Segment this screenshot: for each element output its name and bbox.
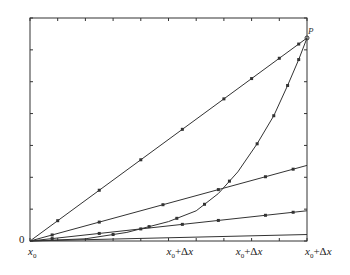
data-marker [272,114,275,117]
data-marker [297,58,300,61]
data-marker [98,232,101,235]
data-marker [217,219,220,222]
data-marker [256,142,259,145]
figure: P [0,0,350,275]
data-marker [51,233,54,236]
data-marker [148,225,151,228]
data-marker [98,221,101,224]
data-marker [264,175,267,178]
y-origin-label: 0 [19,233,25,245]
data-marker [286,84,289,87]
marker-group [51,36,309,240]
data-marker [98,189,101,192]
data-marker [264,214,267,217]
data-marker [161,203,164,206]
data-marker [250,77,253,80]
data-marker [51,237,54,240]
series-secant-steep [30,38,307,241]
x-tick-label: x0+Δx [236,245,263,260]
data-marker [222,97,225,100]
data-marker [181,128,184,131]
x-tick-label: x0+Δx [305,245,332,260]
data-marker [181,223,184,226]
data-marker [292,211,295,214]
series-group [30,38,307,241]
data-marker [278,57,281,60]
data-marker [139,158,142,161]
x-tick-label: x0 [28,245,36,260]
data-marker [139,227,142,230]
data-marker [217,188,220,191]
x-tick-label: x0+Δx [167,245,194,260]
data-marker [228,180,231,183]
data-marker [56,219,59,222]
data-marker [175,217,178,220]
data-marker [112,233,115,236]
point-p-label: P [307,26,314,36]
data-marker [292,168,295,171]
data-marker [203,203,206,206]
data-marker [297,43,300,46]
